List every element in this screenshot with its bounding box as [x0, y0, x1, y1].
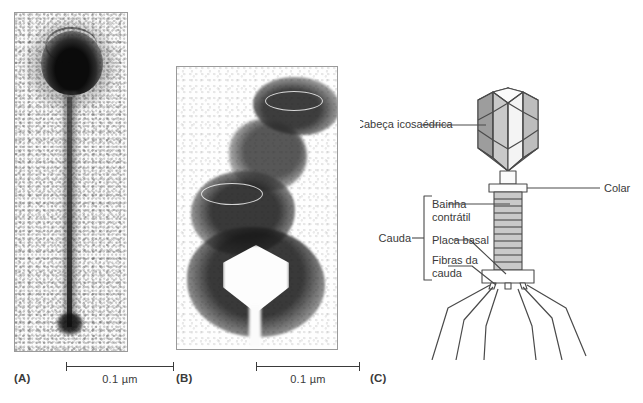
- baseplate-prong-center: [505, 283, 511, 289]
- phage-particle-middle-rim: [201, 183, 263, 205]
- micrograph-panel-b: [176, 66, 338, 350]
- micrograph-panel-a: [14, 12, 128, 352]
- phage-tail-core: [67, 97, 72, 327]
- figure-root: (A) 0.1 µm (B) 0.1 µm (C): [0, 0, 643, 403]
- panel-label-b: (B): [176, 372, 193, 384]
- phage-baseplate: [57, 313, 83, 335]
- scalebar-b-cap-left: [256, 362, 257, 371]
- phage-head-rim: [45, 27, 97, 63]
- tail-fiber-6: [527, 285, 586, 356]
- label-fibers-line2: cauda: [432, 267, 463, 279]
- head-facet-right-mid: [523, 92, 538, 158]
- tail-fiber-1: [432, 285, 490, 360]
- scalebar-b-text: 0.1 µm: [256, 373, 360, 385]
- label-sheath-line2: contrátil: [432, 211, 471, 223]
- label-fibers-line1: Fibras da: [432, 254, 479, 266]
- label-baseplate: Placa basal: [432, 234, 489, 246]
- collar: [489, 184, 527, 192]
- scalebar-a-cap-left: [66, 362, 67, 371]
- bracket-tail: [424, 196, 432, 280]
- scalebar-b-line: [256, 362, 360, 371]
- label-tail-bracket: Cauda: [379, 232, 412, 244]
- label-sheath-line1: Bainha: [432, 198, 467, 210]
- tail-fiber-2: [456, 287, 493, 360]
- scalebar-b-cap-right: [359, 362, 360, 371]
- phage-schematic-diagram: Cabeça icosaédrica Colar Cauda Bainha co…: [360, 8, 643, 360]
- tail-fiber-5: [523, 287, 562, 360]
- tail-fiber-4: [518, 289, 536, 360]
- label-collar: Colar: [604, 182, 631, 194]
- tail-fiber-3: [484, 289, 498, 360]
- phage-particle-upper-rim: [265, 91, 323, 111]
- phage-bright-tail: [249, 305, 261, 347]
- scalebar-b: 0.1 µm: [256, 362, 360, 385]
- scalebar-a-text: 0.1 µm: [66, 373, 174, 385]
- panel-label-c: (C): [370, 372, 387, 384]
- scalebar-a: 0.1 µm: [66, 362, 174, 385]
- neck: [500, 171, 516, 184]
- scalebar-a-line: [66, 362, 174, 371]
- scalebar-a-cap-right: [173, 362, 174, 371]
- label-head: Cabeça icosaédrica: [360, 118, 453, 130]
- tail-fibers: [432, 285, 586, 360]
- head-icosahedron: [478, 88, 538, 171]
- panel-label-a: (A): [14, 372, 31, 384]
